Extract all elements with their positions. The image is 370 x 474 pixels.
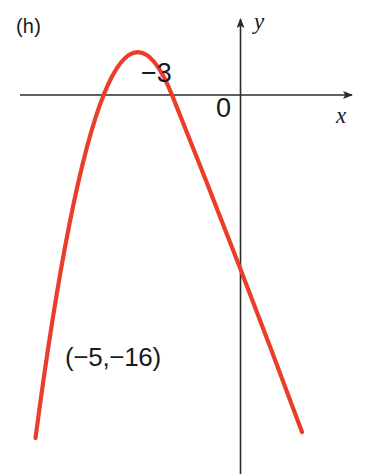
vertex-x-intercept-label: −3: [141, 60, 172, 87]
origin-label: 0: [216, 95, 231, 122]
coordinate-point-label: (−5,−16): [65, 344, 161, 370]
x-axis-label: x: [336, 104, 346, 127]
y-axis-label: y: [254, 10, 264, 33]
parabola-figure: (h) −3 0 y x (−5,−16): [0, 0, 370, 474]
graph-canvas: [0, 0, 370, 474]
parabola-curve: [36, 52, 303, 438]
part-label: (h): [16, 16, 41, 36]
